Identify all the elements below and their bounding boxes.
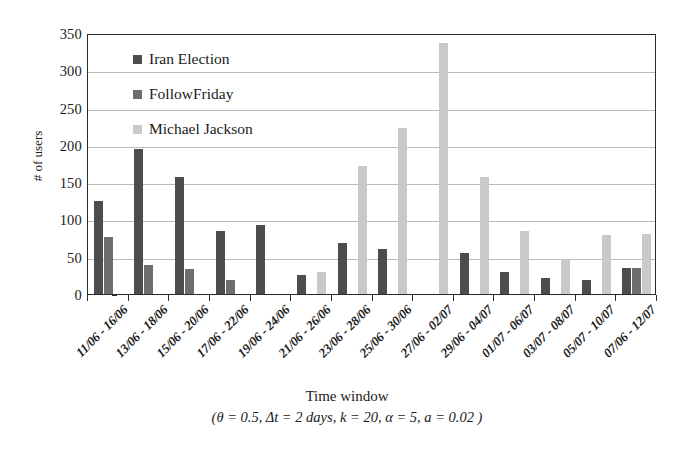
- bar: [602, 235, 611, 294]
- bar: [622, 268, 631, 294]
- bar: [642, 234, 651, 294]
- x-axis-title-block: Time window (θ = 0.5, Δt = 2 days, k = 2…: [0, 386, 694, 428]
- x-tick-mark: [290, 295, 291, 301]
- legend-item-label: FollowFriday: [149, 86, 233, 102]
- y-tick-label: 300: [60, 63, 82, 80]
- y-tick-label: 200: [60, 137, 82, 154]
- bar: [582, 280, 591, 294]
- legend-item-label: Iran Election: [149, 51, 229, 67]
- legend-swatch-icon: [133, 55, 142, 64]
- x-tick-mark: [250, 295, 251, 301]
- x-tick-mark: [575, 295, 576, 301]
- bar-group: [251, 35, 292, 294]
- x-tick-mark: [656, 295, 657, 301]
- y-tick-label: 100: [60, 212, 82, 229]
- x-tick-mark: [534, 295, 535, 301]
- bar-chart-figure: 050100150200250300350 # of users Iran El…: [0, 0, 694, 457]
- legend-item[interactable]: Michael Jackson: [133, 115, 253, 143]
- bar: [480, 177, 489, 294]
- x-tick-mark: [615, 295, 616, 301]
- legend-swatch-icon: [133, 90, 142, 99]
- bar: [398, 128, 407, 294]
- bar: [317, 272, 326, 294]
- y-axis-title: # of users: [30, 96, 46, 216]
- bar-group: [616, 35, 657, 294]
- bar-group: [535, 35, 576, 294]
- bar: [439, 43, 448, 294]
- y-tick-label: 250: [60, 100, 82, 117]
- bar-group: [576, 35, 617, 294]
- y-tick-label: 0: [75, 287, 82, 304]
- bar: [338, 243, 347, 294]
- bar: [632, 268, 641, 294]
- y-tick-label: 50: [67, 249, 82, 266]
- plot-area: Iran ElectionFollowFridayMichael Jackson: [87, 34, 656, 295]
- bar-group: [88, 35, 129, 294]
- legend-item-label: Michael Jackson: [149, 121, 253, 137]
- x-axis-parameters: (θ = 0.5, Δt = 2 days, k = 20, α = 5, a …: [0, 406, 694, 428]
- legend-swatch-icon: [133, 125, 142, 134]
- y-tick-label: 150: [60, 175, 82, 192]
- bar: [378, 249, 387, 294]
- x-tick-mark: [168, 295, 169, 301]
- bar: [256, 225, 265, 294]
- x-axis-labels: 11/06 - 16/0613/06 - 18/0615/06 - 20/061…: [87, 302, 656, 382]
- bar: [144, 265, 153, 294]
- bar: [561, 259, 570, 294]
- x-tick-mark: [453, 295, 454, 301]
- x-axis-title: Time window: [0, 386, 694, 406]
- bar: [185, 269, 194, 294]
- x-axis-ticks: [87, 295, 656, 302]
- y-tick-label: 350: [60, 26, 82, 43]
- bar: [358, 166, 367, 294]
- x-tick-mark: [128, 295, 129, 301]
- x-tick-mark: [87, 295, 88, 301]
- x-tick-mark: [493, 295, 494, 301]
- bar: [134, 149, 143, 294]
- bar: [216, 231, 225, 294]
- bar: [175, 177, 184, 294]
- bar-group: [494, 35, 535, 294]
- x-tick-label: 13/06 - 18/06: [19, 302, 172, 455]
- bar: [104, 237, 113, 294]
- bar: [94, 201, 103, 294]
- bar: [297, 275, 306, 294]
- bar: [460, 253, 469, 294]
- x-tick-mark: [412, 295, 413, 301]
- bar: [541, 278, 550, 294]
- bar: [500, 272, 509, 294]
- x-tick-mark: [372, 295, 373, 301]
- bar-group: [454, 35, 495, 294]
- bar-group: [332, 35, 373, 294]
- chart-legend: Iran ElectionFollowFridayMichael Jackson: [133, 45, 253, 150]
- bar: [226, 280, 235, 294]
- legend-item[interactable]: Iran Election: [133, 45, 253, 73]
- bar-group: [291, 35, 332, 294]
- bar-group: [413, 35, 454, 294]
- bar-group: [373, 35, 414, 294]
- bar: [520, 231, 529, 294]
- x-tick-mark: [331, 295, 332, 301]
- x-tick-mark: [209, 295, 210, 301]
- legend-item[interactable]: FollowFriday: [133, 80, 253, 108]
